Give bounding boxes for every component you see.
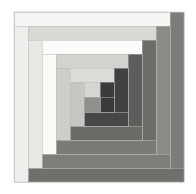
strip-ring2-bottom-dark bbox=[42, 154, 170, 168]
strip-ring5-right-dark bbox=[114, 68, 128, 112]
strip-ring4-left-pale bbox=[56, 68, 70, 140]
strip-ring3-right-dark bbox=[142, 40, 156, 140]
strip-ring4-bottom-dark bbox=[70, 126, 142, 140]
strip-ring2-left-light bbox=[28, 40, 42, 168]
strip-ring5-top-light bbox=[70, 68, 114, 82]
artwork-canvas bbox=[0, 0, 196, 194]
strip-outer-top-light bbox=[14, 12, 170, 26]
log-cabin-svg bbox=[0, 0, 196, 194]
strip-ring5-left-light bbox=[70, 82, 84, 126]
log-cabin-block bbox=[0, 0, 196, 194]
strip-ring3-top-white bbox=[42, 40, 142, 54]
strip-outer-left-light bbox=[14, 26, 28, 182]
strip-outer-right-dark bbox=[170, 12, 184, 168]
strip-ring4-top-pale bbox=[56, 54, 128, 68]
strip-center-square bbox=[84, 97, 100, 112]
strip-ring6-top-light bbox=[84, 82, 100, 97]
strip-ring3-bottom-dark bbox=[56, 140, 156, 154]
strip-ring2-right-dark bbox=[156, 26, 170, 154]
strip-ring6-bottom-dark bbox=[100, 97, 114, 112]
strip-ring5-bottom-dark bbox=[84, 112, 128, 126]
strip-ring4-right-dark bbox=[128, 54, 142, 126]
strip-outer-bottom-dark bbox=[28, 168, 184, 182]
strip-ring2-top-light bbox=[28, 26, 156, 40]
strip-ring6-right-dark bbox=[100, 82, 114, 97]
strip-ring3-left-white bbox=[42, 54, 56, 154]
